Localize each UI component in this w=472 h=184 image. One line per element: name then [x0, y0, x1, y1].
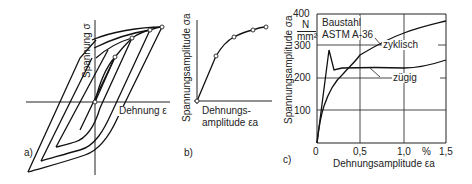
loop-tip-marker: [130, 36, 134, 40]
unit-numerator: N: [302, 20, 309, 30]
xtick-1-5: 1,5: [439, 147, 453, 157]
legend-monotonic: zügig: [392, 73, 418, 83]
panel-b-graphics: [194, 20, 272, 104]
panel-c-label: c): [283, 155, 291, 165]
xtick-0: 0: [313, 147, 319, 157]
ytick-300: 300: [294, 41, 311, 51]
panel-b-label: b): [184, 148, 193, 158]
panel-a-label: a): [24, 148, 33, 158]
ytick-400: 400: [293, 9, 310, 19]
legend-cyclic: zyklisch: [382, 40, 419, 50]
data-point: [195, 99, 199, 103]
panel-b-x-axis-label-line2: amplitude εa: [202, 118, 258, 128]
x-unit-percent: %: [422, 147, 431, 157]
data-point: [214, 54, 218, 58]
monotonic-curve: [317, 50, 446, 143]
panel-b-y-axis-label: Spannungsamplitude σa: [182, 14, 192, 122]
panel-a-x-axis-label: Dehnung ε: [118, 106, 168, 116]
origin-marker: [93, 100, 97, 104]
panel-c-y-axis-label: Spannungsamplitude σa: [284, 16, 294, 124]
xtick-0-5: 0,5: [353, 147, 367, 157]
ytick-100: 100: [294, 106, 311, 116]
cyclic-curve-b: [197, 27, 266, 101]
loop-tip-marker: [113, 55, 117, 59]
panel-a-graphics: [26, 20, 170, 175]
panel-a-y-axis-label: Spannung σ: [82, 23, 92, 78]
data-point: [251, 28, 255, 32]
material-label-line2: ASTM A-36: [322, 30, 373, 40]
panel-b-x-axis-label-line1: Dehnungs-: [202, 106, 251, 116]
data-point: [232, 35, 236, 39]
initial-loading-curve: [95, 27, 162, 102]
figure: Spannung σ Dehnung ε a) Spannungsamplitu…: [0, 0, 472, 184]
material-label-line1: Baustahl: [322, 18, 361, 28]
xtick-1-0: 1,0: [397, 147, 411, 157]
data-point: [264, 25, 268, 29]
loop-tip-marker: [160, 25, 164, 29]
panel-c-x-axis-label: Dehnungsamplitude εa: [333, 159, 435, 169]
loop-tip-marker: [148, 28, 152, 32]
ytick-200: 200: [294, 73, 311, 83]
